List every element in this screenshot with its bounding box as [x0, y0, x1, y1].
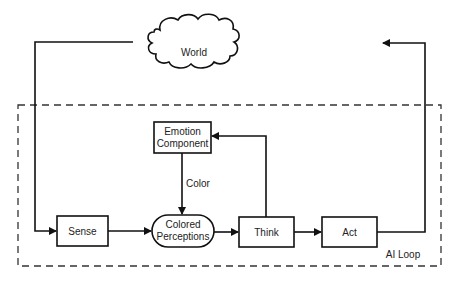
emotion-label-line2: Component: [157, 138, 209, 149]
think-label: Think: [254, 227, 279, 238]
world-label: World: [181, 47, 207, 58]
color-edge-label: Color: [186, 178, 211, 189]
colored-perceptions-pill: Colored Perceptions: [152, 215, 214, 247]
act-label: Act: [342, 227, 357, 238]
edge-act-to-world: [377, 43, 425, 232]
edge-think-to-emotion: [212, 136, 266, 217]
sense-label: Sense: [68, 226, 97, 237]
edge-world-to-sense: [35, 42, 133, 231]
world-cloud: World: [148, 14, 239, 68]
perceptions-label-line2: Perceptions: [157, 231, 210, 242]
act-box: Act: [322, 217, 377, 247]
think-box: Think: [239, 217, 294, 247]
diagram-canvas: AI Loop World Emotion Component Color Se…: [0, 0, 457, 281]
sense-box: Sense: [57, 216, 108, 246]
perceptions-label-line1: Colored: [165, 219, 200, 230]
emotion-label-line1: Emotion: [164, 126, 201, 137]
ai-loop-label: AI Loop: [386, 249, 421, 260]
emotion-component-box: Emotion Component: [154, 122, 211, 153]
